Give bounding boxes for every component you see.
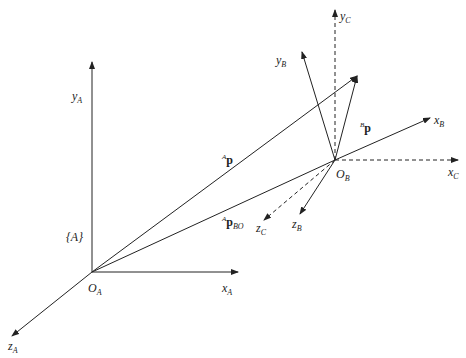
frame-diagram: yA xA zA OA {A} OB yB xB zB yC xC zC Ap … — [0, 0, 466, 358]
label-vector-ap: Ap — [221, 153, 233, 167]
label-ob: OB — [336, 167, 350, 183]
axis-xb — [335, 118, 430, 160]
frame-c-axes — [264, 10, 458, 220]
vector-bp — [335, 76, 357, 160]
label-vector-apbo: ApBO — [221, 215, 244, 231]
label-frame-a: {A} — [66, 230, 83, 244]
label-yb: yB — [275, 53, 286, 69]
label-ya: yA — [71, 89, 82, 105]
label-xc: xC — [447, 165, 459, 181]
axis-zc — [264, 160, 335, 220]
vector-apbo — [92, 160, 335, 272]
label-zb: zB — [291, 217, 302, 233]
label-xb: xB — [433, 113, 444, 129]
axis-za — [12, 272, 92, 336]
label-xa: xA — [221, 281, 232, 297]
label-vector-bp: Bp — [360, 121, 371, 135]
label-za: zA — [7, 339, 18, 355]
vector-ap — [92, 76, 357, 272]
label-oa: OA — [88, 281, 102, 297]
label-yc: yC — [339, 9, 351, 25]
axis-yb — [302, 52, 335, 160]
vectors — [92, 76, 357, 272]
label-zc: zC — [255, 221, 267, 237]
frame-a-axes — [12, 62, 238, 336]
